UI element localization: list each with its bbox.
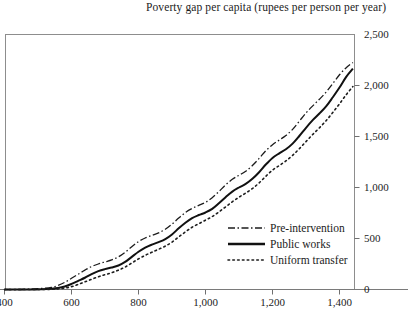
chart-figure: Poverty gap per capita (rupees per perso… xyxy=(0,0,408,318)
y-tick-label: 0 xyxy=(364,283,370,295)
x-tick-label: 400 xyxy=(0,296,35,308)
y-axis-ticks xyxy=(355,86,360,239)
legend-item-pre-intervention: Pre-intervention xyxy=(270,222,345,234)
x-axis-ticks xyxy=(0,290,408,295)
legend-item-uniform-transfer: Uniform transfer xyxy=(270,254,348,266)
plot-area xyxy=(0,0,408,318)
plot-frame xyxy=(6,35,355,290)
legend-item-public-works: Public works xyxy=(270,238,330,250)
y-tick-label: 500 xyxy=(364,232,381,244)
x-tick-label: 1,000 xyxy=(176,296,236,308)
x-tick-label: 800 xyxy=(109,296,169,308)
y-tick-label: 2,000 xyxy=(364,79,389,91)
x-tick-label: 1,400 xyxy=(310,296,370,308)
y-tick-label: 1,500 xyxy=(364,130,389,142)
y-tick-label: 2,500 xyxy=(364,28,389,40)
x-tick-label: 600 xyxy=(42,296,102,308)
x-tick-label: 1,200 xyxy=(243,296,303,308)
y-tick-label: 1,000 xyxy=(364,181,389,193)
